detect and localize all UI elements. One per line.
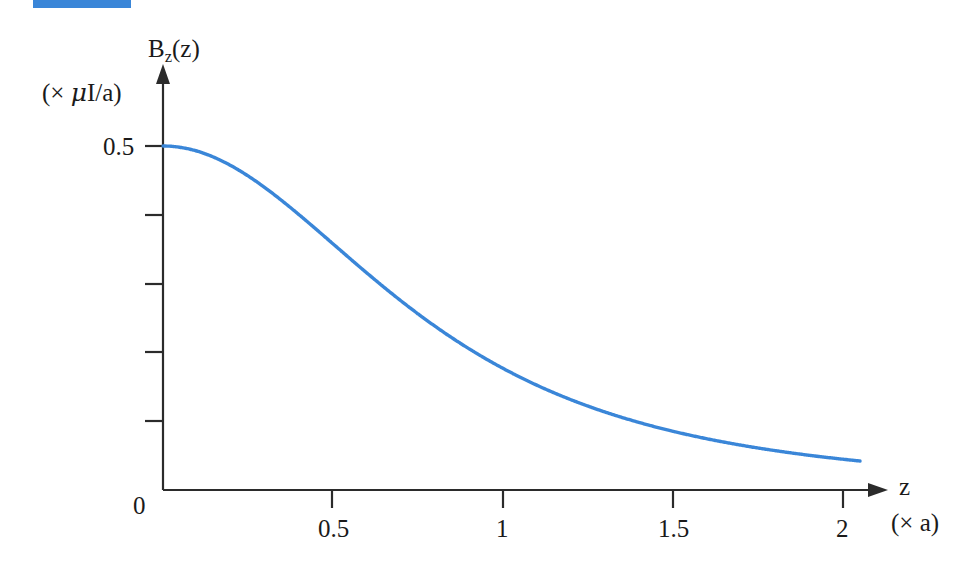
- y-axis-title-arg: (z): [172, 35, 200, 62]
- y-axis-title-base: B: [148, 35, 165, 62]
- x-axis-unit-label: (× a): [891, 510, 939, 535]
- y-axis-arrow-icon: [156, 64, 170, 84]
- origin-label: 0: [133, 493, 146, 518]
- field-curve: [163, 146, 860, 461]
- x-axis-ticks: [332, 490, 843, 508]
- x-tick-label-1.5: 1.5: [658, 516, 689, 541]
- x-axis-title: z: [899, 474, 910, 499]
- y-axis-unit-label: (× μI/a): [42, 80, 122, 105]
- y-axis-ticks: [145, 146, 163, 421]
- plot-canvas: [0, 0, 974, 570]
- figure-root: Bz(z) (× μI/a) 0.5 0 0.5 1 1.5 2 z (× a): [0, 0, 974, 570]
- y-unit-rest: I/a): [87, 79, 122, 106]
- y-unit-open: (×: [42, 79, 71, 106]
- mu-symbol: μ: [71, 78, 87, 107]
- y-axis-title: Bz(z): [148, 36, 200, 65]
- x-tick-label-0.5: 0.5: [318, 516, 349, 541]
- y-axis-title-subscript: z: [165, 47, 172, 66]
- y-tick-label-0.5: 0.5: [103, 134, 134, 159]
- x-tick-label-2: 2: [836, 516, 849, 541]
- x-axis-arrow-icon: [868, 483, 888, 497]
- x-tick-label-1: 1: [496, 516, 509, 541]
